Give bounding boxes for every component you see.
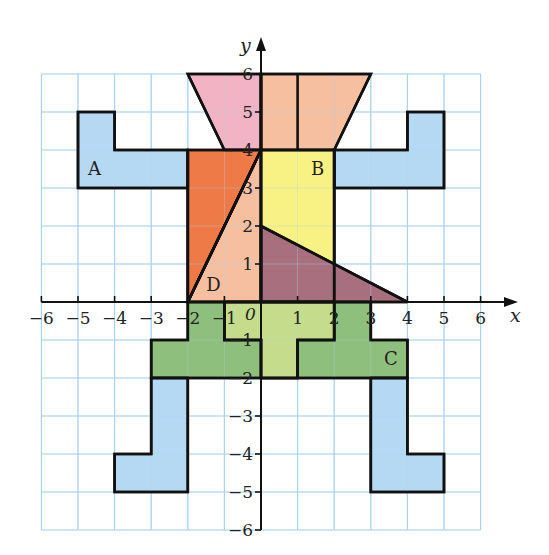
y-tick-label: 3 (242, 178, 253, 198)
x-tick-label: 5 (439, 308, 450, 328)
x-tick-label: 4 (402, 308, 413, 328)
origin-label: 0 (245, 304, 256, 324)
shape-label-d: D (206, 274, 220, 295)
y-tick-label: 6 (242, 64, 253, 84)
coordinate-plane: −6−5−4−3−2−1123456−6−5−4−3−2−1123456 ABC… (0, 0, 549, 555)
x-tick-label: −5 (65, 308, 90, 328)
shape-label-c: C (384, 348, 398, 369)
y-axis-label: y (239, 34, 251, 56)
x-tick-label: −4 (102, 308, 127, 328)
y-tick-label: −4 (228, 444, 253, 464)
y-tick-label: 4 (242, 140, 253, 160)
y-tick-label: 2 (242, 216, 253, 236)
y-tick-label: 5 (242, 102, 253, 122)
y-tick-label: −2 (228, 368, 253, 388)
x-tick-label: −1 (212, 308, 237, 328)
coordinate-grid-figure: −6−5−4−3−2−1123456−6−5−4−3−2−1123456 ABC… (0, 0, 549, 555)
y-tick-label: −6 (228, 520, 253, 540)
y-tick-label: 1 (242, 254, 253, 274)
shape-label-b: B (311, 158, 324, 179)
x-tick-label: 6 (475, 308, 486, 328)
x-tick-label: 2 (329, 308, 340, 328)
x-tick-label: −2 (175, 308, 200, 328)
x-axis-label: x (510, 304, 521, 326)
x-tick-label: 1 (292, 308, 303, 328)
x-tick-label: −6 (29, 308, 54, 328)
y-axis-arrow-icon (256, 37, 266, 51)
x-tick-label: −3 (139, 308, 164, 328)
shape-label-a: A (87, 158, 102, 179)
x-tick-label: 3 (365, 308, 376, 328)
y-tick-label: −1 (228, 330, 253, 350)
y-tick-label: −3 (228, 406, 253, 426)
y-tick-label: −5 (228, 482, 253, 502)
